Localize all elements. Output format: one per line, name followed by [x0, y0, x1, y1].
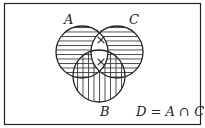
cross-mark-lower: × — [96, 54, 107, 69]
label-a: A — [63, 12, 73, 27]
venn-diagram: × × A C B D = A ∩ C — [0, 0, 205, 128]
equation-label: D = A ∩ C — [135, 104, 204, 119]
cross-mark-upper: × — [96, 32, 107, 47]
label-b: B — [99, 104, 110, 119]
label-c: C — [129, 12, 139, 27]
